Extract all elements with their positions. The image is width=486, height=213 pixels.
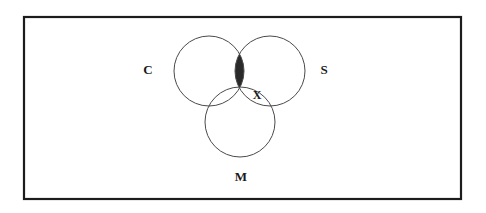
set-label-m: M <box>235 169 247 184</box>
set-circle-c <box>174 36 244 106</box>
venn-diagram-canvas: C S M X <box>0 0 486 213</box>
region-label-x: X <box>253 88 262 102</box>
set-circle-s <box>235 36 305 106</box>
set-circle-m <box>205 87 275 157</box>
set-label-c: C <box>143 62 152 77</box>
venn-diagram-figure: C S M X <box>0 0 486 213</box>
set-label-s: S <box>320 62 327 77</box>
